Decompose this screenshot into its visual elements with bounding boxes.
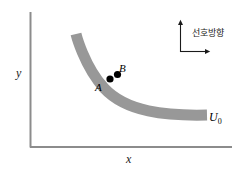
point-b-label: B [119, 62, 126, 74]
indifference-curve-u0 [76, 34, 207, 115]
point-a-label: A [95, 81, 102, 93]
curve-label-subscript: 0 [218, 117, 222, 126]
point-a-marker [106, 75, 113, 82]
y-axis-label: y [16, 66, 21, 81]
indifference-curve-figure: x y A B U0 선호방향 [0, 0, 240, 178]
curve-label-letter: U [209, 110, 218, 124]
legend-label-preference-direction: 선호방향 [192, 26, 224, 39]
curve-label-u0: U0 [209, 110, 222, 126]
x-axis-label: x [126, 152, 131, 167]
